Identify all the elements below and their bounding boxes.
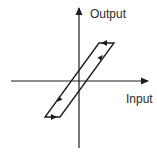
diagram-canvas <box>0 0 157 155</box>
hysteresis-diagram: Output Input <box>0 0 157 155</box>
loop-arrow-top-edge-icon <box>101 40 107 46</box>
loop-arrow-bottom-edge-icon <box>51 114 57 120</box>
y-axis-label: Output <box>90 8 126 20</box>
x-axis-label: Input <box>126 93 153 105</box>
